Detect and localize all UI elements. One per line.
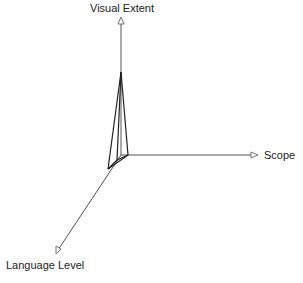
arrowhead-icon [118,17,124,24]
label-language-level: Language Level [6,259,84,271]
label-visual-extent: Visual Extent [90,2,154,14]
axis-language-level [56,155,121,254]
axis-scope [121,152,258,158]
arrowhead-icon [251,152,258,158]
label-scope: Scope [264,149,295,161]
diagram-canvas [0,0,303,283]
profile-shape [108,72,128,169]
